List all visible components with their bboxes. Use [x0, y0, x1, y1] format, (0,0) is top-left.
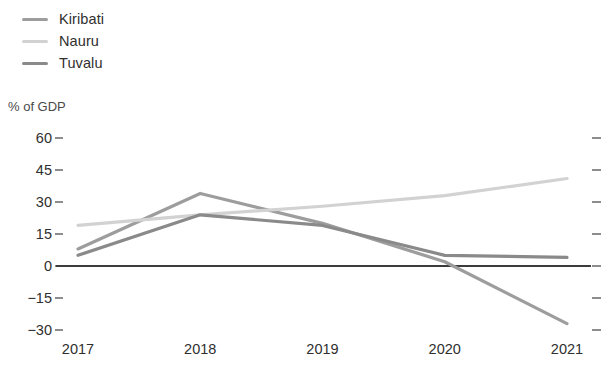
series-line-tuvalu[interactable] — [78, 215, 567, 258]
series-line-kiribati[interactable] — [78, 193, 567, 323]
chart-container: Kiribati Nauru Tuvalu % of GDP 604530150… — [0, 0, 616, 378]
plot-area — [0, 0, 616, 378]
series-line-nauru[interactable] — [78, 179, 567, 226]
